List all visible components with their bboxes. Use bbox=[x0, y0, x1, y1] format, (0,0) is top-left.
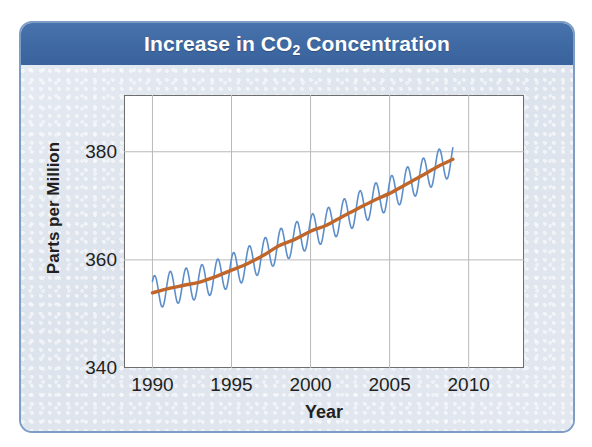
y-tick-label-380: 380 bbox=[61, 141, 117, 163]
y-axis-tick-labels: 340360380 bbox=[58, 95, 117, 368]
x-tick-label-2005: 2005 bbox=[355, 374, 425, 396]
series-layer bbox=[152, 148, 452, 307]
series-line-trend bbox=[152, 159, 452, 293]
chart-canvas bbox=[124, 95, 524, 368]
x-tick-label-1990: 1990 bbox=[117, 374, 187, 396]
x-axis-tick-labels: 19901995200020052010 bbox=[124, 374, 524, 400]
x-tick-label-2010: 2010 bbox=[434, 374, 504, 396]
x-tick-label-2000: 2000 bbox=[276, 374, 346, 396]
chart-title-bar: Increase in CO2 Concentration bbox=[21, 23, 573, 65]
title-suffix: Concentration bbox=[300, 32, 450, 55]
y-tick-label-360: 360 bbox=[61, 249, 117, 271]
chart-card: Increase in CO2 Concentration Parts per … bbox=[19, 21, 575, 433]
y-tick-label-340: 340 bbox=[61, 357, 117, 379]
page-background: Increase in CO2 Concentration Parts per … bbox=[0, 0, 592, 447]
title-subscript: 2 bbox=[293, 42, 301, 58]
x-tick-label-1995: 1995 bbox=[197, 374, 267, 396]
page-title: Increase in CO2 Concentration bbox=[144, 32, 450, 56]
plot-area bbox=[124, 95, 524, 368]
x-axis-title: Year bbox=[124, 402, 524, 423]
title-prefix: Increase in CO bbox=[144, 32, 292, 55]
